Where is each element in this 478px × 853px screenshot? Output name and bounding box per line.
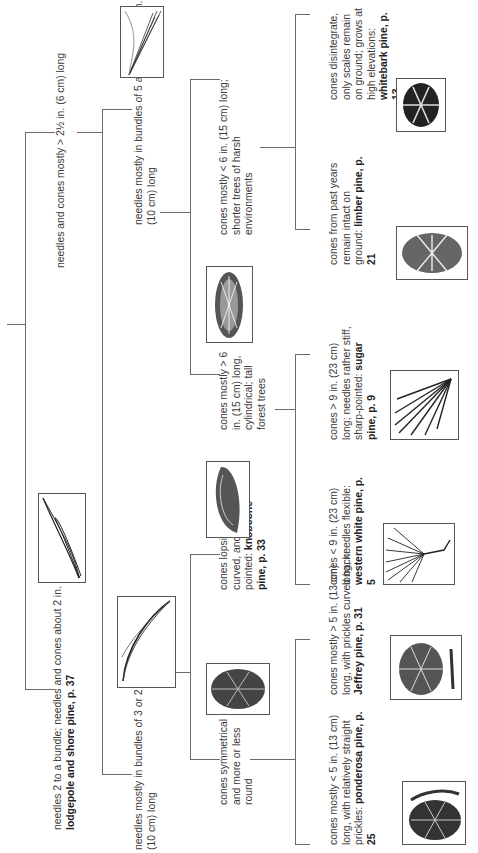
sugar-pine-needles-icon [390, 370, 459, 440]
node-text: needles and cones mostly > 2½ in. (6 cm)… [55, 53, 66, 268]
species-name: Jeffrey pine, p. 31 [353, 607, 364, 695]
three-needle-bundle-icon [117, 596, 176, 688]
western-white-needles-icon [383, 523, 455, 585]
level4-b-tick-a [295, 584, 310, 585]
level3-lower-tick-a [190, 759, 220, 760]
key-node-ponderosa: cones mostly < 5 in. (13 cm) long, with … [328, 700, 378, 845]
node-text: cones mostly > 5 in. (13 cm) long, with … [328, 551, 352, 695]
level3-lower-tick-b [190, 554, 220, 555]
species-name: lodgepole and shore pine, p. 37 [65, 675, 76, 830]
level2-tick-a [102, 774, 132, 775]
level4-c-tick-b [295, 639, 310, 640]
node-text: cones symmetrical and more or less round [218, 719, 254, 805]
level2-bracket [102, 110, 103, 775]
key-node-round-cones: cones symmetrical and more or less round [218, 705, 256, 805]
level3-upper-tick-b [190, 79, 220, 80]
root-connector [7, 324, 25, 325]
level4-a-tick-b [295, 14, 310, 15]
five-needle-bundle-icon [120, 6, 164, 78]
node-text: cones mostly > 6 in. (15 cm) long, cylin… [218, 352, 267, 430]
key-node-jeffrey: cones mostly > 5 in. (13 cm) long, with … [328, 545, 366, 695]
level4-b-bracket [295, 355, 296, 585]
key-node-short-cones: cones mostly < 6 in. (15 cm) long; short… [218, 75, 256, 235]
two-needle-bundle-icon [38, 493, 86, 583]
level1-bracket [25, 133, 26, 690]
level3-upper-tick-a [190, 374, 220, 375]
key-node-long-needles: needles and cones mostly > 2½ in. (6 cm)… [55, 0, 68, 268]
node-text: cones mostly < 6 in. (15 cm) long; short… [218, 79, 254, 235]
n2a-connector [160, 212, 190, 213]
level4-c-bracket [295, 640, 296, 845]
pine-identification-key: needles 2 to a bundle; needles and cones… [0, 0, 478, 853]
level3-upper-bracket [190, 80, 191, 375]
key-node-limber: cones from past years remain intact on g… [328, 155, 378, 265]
whitebark-cone-icon [396, 78, 446, 132]
level3-lower-bracket [190, 555, 191, 760]
key-node-cylindrical-cones: cones mostly > 6 in. (15 cm) long, cylin… [218, 340, 268, 430]
ponderosa-cone-icon [402, 781, 466, 845]
n1b-connector [77, 132, 102, 133]
lopsided-cone-icon [206, 461, 250, 538]
n3b-connector [275, 409, 295, 410]
level4-a-tick-a [295, 229, 310, 230]
limber-cone-icon [396, 226, 468, 280]
jeffrey-cone-icon [390, 635, 462, 700]
key-node-whitebark: cones disintegrate, only scales remain o… [328, 0, 404, 100]
level4-a-bracket [295, 15, 296, 230]
round-cone-icon [206, 663, 270, 715]
cylindrical-cone-icon [206, 266, 253, 343]
level4-b-tick-b [295, 354, 310, 355]
level1-tick-b [25, 132, 55, 133]
level4-c-tick-a [295, 844, 310, 845]
n3d-connector [250, 759, 295, 760]
node-text: cones disintegrate, only scales remain o… [328, 8, 377, 100]
n3a-connector [260, 147, 295, 148]
key-node-sugar: cones > 9 in. (23 cm) long; needles rath… [328, 320, 378, 440]
level1-tick-a [25, 689, 55, 690]
level2-tick-b [102, 109, 132, 110]
